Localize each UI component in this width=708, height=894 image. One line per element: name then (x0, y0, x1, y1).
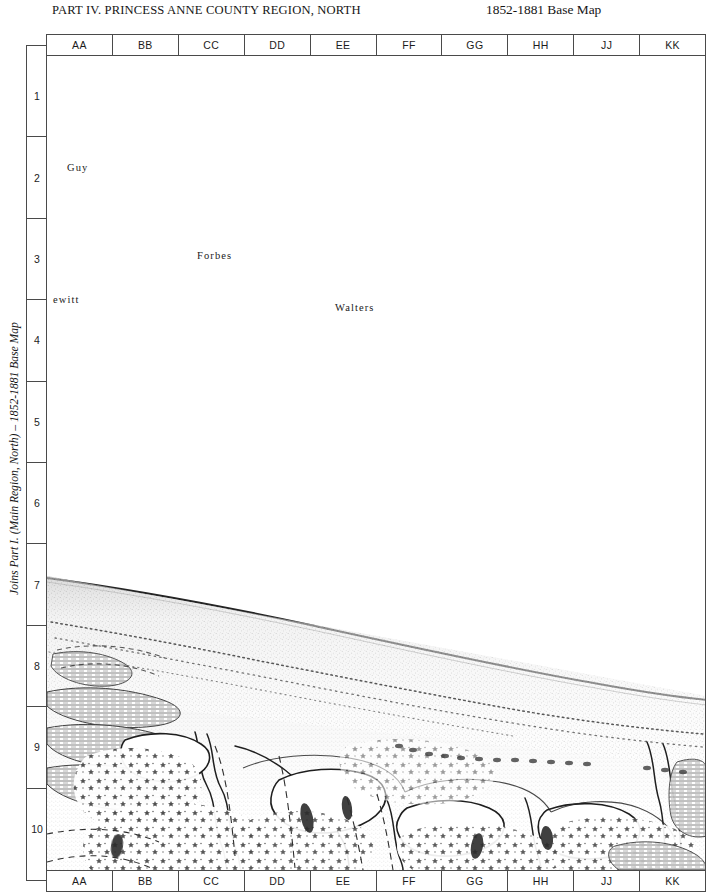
map-page: PART IV. PRINCESS ANNE COUNTY REGION, NO… (0, 0, 708, 894)
column-header-hh: HH (508, 35, 574, 55)
column-header-hh: HH (508, 871, 574, 891)
page-title: PART IV. PRINCESS ANNE COUNTY REGION, NO… (52, 3, 361, 18)
row-header-8: 8 (27, 626, 47, 707)
column-header-cc: CC (179, 871, 245, 891)
column-header-kk: KK (640, 35, 705, 55)
row-header-label: 2 (34, 172, 40, 184)
column-header-gg: GG (442, 35, 508, 55)
row-header-2: 2 (27, 137, 47, 218)
map-body: Guy Forbes Walters ewitt (46, 56, 706, 870)
row-header-6: 6 (27, 463, 47, 544)
map-grid-frame: AABBCCDDEEFFGGHHJJKK 12345678910 (26, 34, 706, 892)
column-header-bb: BB (113, 871, 179, 891)
row-header-label: 3 (34, 253, 40, 265)
column-header-bb: BB (113, 35, 179, 55)
row-axis: 12345678910 (26, 56, 46, 870)
column-header-kk: KK (640, 871, 705, 891)
column-header-strip-bottom: AABBCCDDEEFFGGHHJJKK (46, 870, 706, 892)
joins-part-side-label: Joins Part I. (Main Region, North) – 185… (8, 279, 21, 639)
column-header-jj: JJ (574, 35, 640, 55)
column-header-jj: JJ (574, 871, 640, 891)
column-header-strip-top: AABBCCDDEEFFGGHHJJKK (46, 34, 706, 56)
row-header-label: 9 (34, 741, 40, 753)
corner-step-bottom (26, 870, 46, 881)
column-header-aa: AA (47, 871, 113, 891)
row-header-label: 7 (34, 579, 40, 591)
row-header-label: 8 (34, 660, 40, 672)
row-header-1: 1 (27, 56, 47, 137)
row-header-label: 4 (34, 334, 40, 346)
row-header-3: 3 (27, 219, 47, 300)
column-header-dd: DD (245, 35, 311, 55)
column-header-dd: DD (245, 871, 311, 891)
column-header-aa: AA (47, 35, 113, 55)
base-map-label: 1852-1881 Base Map (486, 2, 601, 18)
row-header-7: 7 (27, 544, 47, 625)
column-header-ee: EE (311, 35, 377, 55)
row-header-9: 9 (27, 707, 47, 788)
row-header-4: 4 (27, 300, 47, 381)
row-header-label: 6 (34, 497, 40, 509)
row-header-label: 1 (34, 90, 40, 102)
column-header-cc: CC (179, 35, 245, 55)
column-header-ee: EE (311, 871, 377, 891)
map-engraving (47, 56, 706, 870)
column-header-ff: FF (377, 871, 443, 891)
corner-step-top (26, 45, 46, 56)
row-header-label: 10 (31, 823, 43, 835)
row-header-label: 5 (34, 416, 40, 428)
row-header-5: 5 (27, 382, 47, 463)
title-bar: PART IV. PRINCESS ANNE COUNTY REGION, NO… (0, 0, 708, 30)
column-header-ff: FF (377, 35, 443, 55)
row-header-10: 10 (27, 789, 47, 870)
column-header-gg: GG (442, 871, 508, 891)
